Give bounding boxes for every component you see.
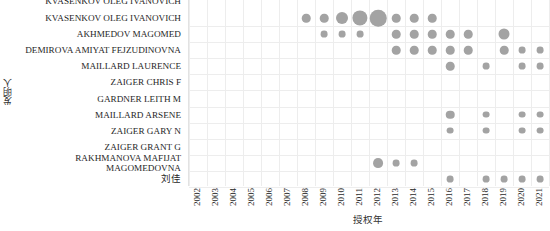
x-axis-tick-label: 2013	[391, 188, 400, 206]
grid-line-vertical	[297, 0, 298, 186]
data-point-bubble[interactable]	[392, 14, 401, 23]
x-axis-title: 授权年	[188, 212, 548, 226]
data-point-bubble[interactable]	[428, 46, 437, 55]
y-axis-tick-label: ZAIGER GARY N	[0, 126, 181, 136]
y-axis-tick-label: MAILLARD ARSENE	[0, 110, 181, 120]
y-axis-tick-label: 刘佳	[0, 174, 181, 184]
data-point-bubble[interactable]	[392, 46, 401, 55]
data-point-bubble[interactable]	[352, 10, 367, 25]
data-point-bubble[interactable]	[537, 63, 544, 70]
data-point-bubble[interactable]	[446, 46, 455, 55]
data-point-bubble[interactable]	[483, 176, 490, 183]
grid-line-vertical	[495, 0, 496, 186]
x-axis-tick-label: 2016	[445, 188, 454, 206]
data-point-bubble[interactable]	[446, 62, 455, 71]
grid-line-vertical	[279, 0, 280, 186]
data-point-bubble[interactable]	[519, 176, 526, 183]
data-point-bubble[interactable]	[302, 14, 311, 23]
data-point-bubble[interactable]	[464, 30, 473, 39]
data-point-bubble[interactable]	[483, 127, 490, 134]
x-axis-tick-label: 2020	[517, 188, 526, 206]
grid-line-vertical	[189, 0, 190, 186]
data-point-bubble[interactable]	[370, 10, 387, 27]
x-axis-tick-label: 2002	[193, 188, 202, 206]
x-axis-tick-label: 2018	[481, 188, 490, 206]
y-axis-tick-label: RAKHMANOVA MAFIJAT MAGOMEDOVNA	[0, 153, 181, 173]
data-point-bubble[interactable]	[483, 111, 490, 118]
y-axis-tick-label: DEMIROVA AMIYAT FEJZUDINOVNA	[0, 45, 181, 55]
x-axis-tick-label: 2010	[337, 188, 346, 206]
x-axis-tick-label: 2011	[355, 188, 364, 206]
data-point-bubble[interactable]	[500, 46, 509, 55]
grid-line-horizontal	[189, 42, 549, 43]
y-axis-tick-label: MAILLARD LAURENCE	[0, 61, 181, 71]
data-point-bubble[interactable]	[410, 46, 419, 55]
x-axis-tick-label: 2005	[247, 188, 256, 206]
data-point-bubble[interactable]	[501, 176, 508, 183]
x-axis-tick-label: 2015	[427, 188, 436, 206]
x-axis-tick-label: 2017	[463, 188, 472, 206]
data-point-bubble[interactable]	[392, 30, 401, 39]
grid-line-horizontal	[189, 171, 549, 172]
grid-line-vertical	[513, 0, 514, 186]
data-point-bubble[interactable]	[410, 14, 419, 23]
data-point-bubble[interactable]	[519, 47, 526, 54]
data-point-bubble[interactable]	[336, 12, 348, 24]
data-point-bubble[interactable]	[447, 127, 454, 134]
x-axis-tick-label: 2009	[319, 188, 328, 206]
data-point-bubble[interactable]	[373, 158, 383, 168]
grid-line-vertical	[387, 0, 388, 186]
data-point-bubble[interactable]	[446, 30, 455, 39]
grid-line-vertical	[351, 0, 352, 186]
data-point-bubble[interactable]	[357, 31, 364, 38]
x-axis-tick-label: 2006	[265, 188, 274, 206]
grid-line-vertical	[477, 0, 478, 186]
data-point-bubble[interactable]	[393, 159, 400, 166]
x-axis-tick-label: 2008	[301, 188, 310, 206]
grid-line-horizontal	[189, 58, 549, 59]
grid-line-vertical	[531, 0, 532, 186]
grid-line-horizontal	[189, 139, 549, 140]
grid-line-vertical	[207, 0, 208, 186]
data-point-bubble[interactable]	[499, 29, 510, 40]
data-point-bubble[interactable]	[519, 111, 526, 118]
grid-line-vertical	[423, 0, 424, 186]
grid-line-vertical	[261, 0, 262, 186]
data-point-bubble[interactable]	[410, 30, 419, 39]
data-point-bubble[interactable]	[483, 63, 490, 70]
data-point-bubble[interactable]	[537, 176, 544, 183]
x-axis-tick-label: 2021	[535, 188, 544, 206]
grid-line-vertical	[225, 0, 226, 186]
data-point-bubble[interactable]	[321, 31, 328, 38]
x-axis-tick-label: 2012	[373, 188, 382, 206]
plot-area	[188, 0, 549, 186]
x-axis-tick-label: 2003	[211, 188, 220, 206]
data-point-bubble[interactable]	[339, 31, 346, 38]
grid-line-vertical	[459, 0, 460, 186]
data-point-bubble[interactable]	[519, 63, 526, 70]
grid-line-vertical	[315, 0, 316, 186]
y-axis-tick-labels: KVASENKOV OLEG IVANOVICHAKHMEDOV MAGOMED…	[0, 0, 185, 186]
grid-line-horizontal	[189, 90, 549, 91]
grid-line-vertical	[333, 0, 334, 186]
data-point-bubble[interactable]	[537, 111, 544, 118]
data-point-bubble[interactable]	[446, 110, 455, 119]
y-axis-tick-label: KVASENKOV OLEG IVANOVICH	[0, 13, 181, 23]
x-axis-tick-label: 2004	[229, 188, 238, 206]
x-axis-tick-label: 2014	[409, 188, 418, 206]
grid-line-vertical	[369, 0, 370, 186]
data-point-bubble[interactable]	[537, 47, 544, 54]
data-point-bubble[interactable]	[428, 30, 437, 39]
data-point-bubble[interactable]	[320, 14, 329, 23]
data-point-bubble[interactable]	[447, 176, 454, 183]
data-point-bubble[interactable]	[464, 46, 473, 55]
data-point-bubble[interactable]	[428, 14, 437, 23]
y-axis-tick-label: AKHMEDOV MAGOMED	[0, 29, 181, 39]
y-axis-tick-label: ZAIGER CHRIS F	[0, 77, 181, 87]
data-point-bubble[interactable]	[537, 127, 544, 134]
grid-line-horizontal	[189, 107, 549, 108]
grid-line-horizontal	[189, 26, 549, 27]
grid-line-horizontal	[189, 74, 549, 75]
data-point-bubble[interactable]	[411, 159, 418, 166]
data-point-bubble[interactable]	[519, 127, 526, 134]
